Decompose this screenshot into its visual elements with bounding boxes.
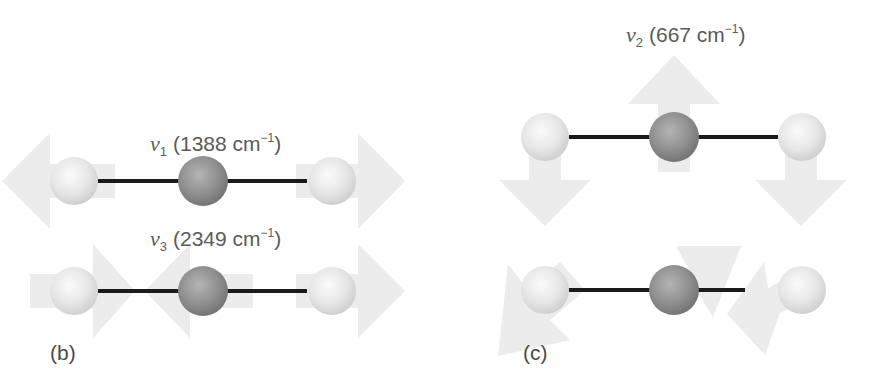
- mode-v3-asymmetric-stretch: v3(2349 cm−1): [30, 226, 405, 338]
- mode-label-v2: v2(667 cm−1): [626, 22, 746, 50]
- carbon-atom: [649, 265, 699, 315]
- oxygen-atom-right: [308, 267, 356, 315]
- panel-label-b: (b): [50, 341, 76, 364]
- oxygen-atom-left: [521, 113, 569, 161]
- mode-v2-bending-bottom: [498, 246, 826, 356]
- mode-label-v1: v1(1388 cm−1): [150, 131, 281, 159]
- oxygen-atom-right: [308, 157, 356, 205]
- mode-v1-symmetric-stretch: v1(1388 cm−1): [2, 131, 405, 229]
- oxygen-atom-left: [50, 267, 98, 315]
- carbon-atom: [649, 112, 699, 162]
- oxygen-atom-right: [778, 266, 826, 314]
- co2-vibration-diagram: v1(1388 cm−1) v3(2349 cm−1) (b) v2(667 c…: [0, 0, 872, 392]
- mode-v2-bending-top: v2(667 cm−1): [499, 22, 847, 226]
- oxygen-atom-left: [50, 157, 98, 205]
- carbon-atom: [178, 156, 228, 206]
- panel-label-c: (c): [523, 341, 548, 364]
- carbon-atom: [178, 266, 228, 316]
- oxygen-atom-right: [778, 113, 826, 161]
- mode-label-v3: v3(2349 cm−1): [150, 226, 281, 254]
- oxygen-atom-left: [521, 266, 569, 314]
